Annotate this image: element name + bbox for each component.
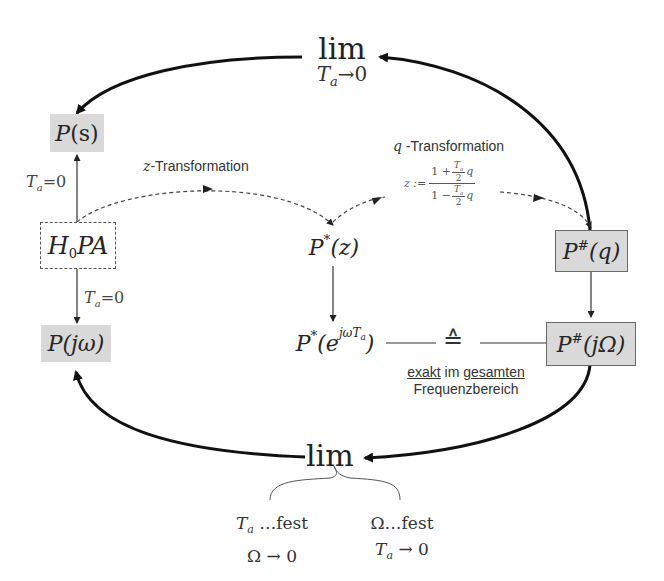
p-jomega-arg: (jΩ) [583,332,625,357]
label-ta0-up: Ta=0 [26,172,66,193]
fixed-text: Ω…fest [362,510,442,536]
p-s-arg: (s) [70,121,98,146]
q-transform-formula: z := 1 + Ta2 q 1 − Ta2 q [404,160,475,207]
den-ta-sub: a [460,190,463,196]
dashed-z-transform [77,191,333,225]
ta-var: T [26,172,37,191]
label-lim-bottom: lim [306,438,354,473]
h-symbol: H [48,232,69,260]
q-transform-text: -Transformation [402,138,504,154]
h-subscript: 0 [69,246,77,261]
den-q: q [466,189,473,202]
exponent: jωT [339,326,361,340]
label-ta0-down: Ta=0 [84,288,124,309]
im-text: im [441,364,464,380]
node-p-star-e: P*(ejωTa) [283,325,387,361]
p-symbol: P [309,235,324,260]
ta-var: T [84,288,95,307]
arrow-lim-bottom-to-pjw [76,372,305,457]
num-q: q [466,165,473,178]
p-symbol: P [296,331,311,356]
num-ta-sub: a [460,166,463,172]
eq-zero: =0 [43,172,67,191]
ta-sub: a [330,74,338,89]
limit-text: Ω → 0 [232,543,312,569]
dashed-q-transform-right [500,192,591,228]
p-q-arg: (q) [589,239,620,264]
node-p-hash-jomega: P#(jΩ) [546,322,636,366]
node-p-jw: P(jω) [41,325,111,362]
gesamten-text: gesamten [463,364,524,380]
node-h0pa: H0PA [40,222,116,269]
formula-fraction: 1 + Ta2 q 1 − Ta2 q [429,160,475,207]
fixed-text: …fest [254,513,308,533]
lim-text: lim [302,34,382,64]
p-symbol: P [55,121,70,146]
p-jw-arg: (jω) [62,331,104,356]
eq-zero: =0 [101,288,125,307]
limit-text: → 0 [393,539,429,559]
corresponds-symbol: ≙ [443,326,463,354]
p-symbol: P [563,239,578,264]
label-case-right: Ω…fest Ta → 0 [362,510,442,569]
ta-var: T [375,539,386,559]
den-two: 2 [456,197,462,207]
ta-var: T [317,62,330,86]
label-z-transformation: z-Transformation [143,158,249,174]
node-p-s: P(s) [50,114,104,152]
exakt-text: exakt [407,364,440,380]
arrow-lim-top-to-ps [77,57,302,113]
label-exact-frequency-range: exakt im gesamten Frequenzbereich [384,364,548,398]
p-symbol: P [48,331,63,356]
p-z-arg: (z) [330,235,359,260]
frequenzbereich-text: Frequenzbereich [384,381,548,398]
num-two: 2 [456,173,462,183]
label-lim-top: lim Ta→0 [302,34,382,92]
node-p-star-z: P*(z) [296,230,372,264]
star-superscript: * [310,327,317,343]
hash-superscript: # [572,330,583,346]
exp-open: (e [317,331,339,356]
node-p-hash-q: P#(q) [555,230,628,272]
hash-superscript: # [578,237,589,253]
exponent-subscript: a [360,332,365,342]
label-case-left: Ta …fest Ω → 0 [232,510,312,569]
label-q-transformation: q -Transformation [393,138,504,154]
lim-condition: →0 [338,62,367,86]
p-symbol: P [557,332,572,357]
z-transform-text: -Transformation [150,158,248,174]
exp-close: ) [366,331,375,356]
num-one-plus: 1 + [431,165,451,178]
formula-lhs: z := [404,177,426,190]
pa-symbol: PA [77,232,108,260]
ta-var: T [236,513,247,533]
den-one-minus: 1 − [431,189,451,202]
q-var: q [393,138,402,154]
star-superscript: * [324,231,331,247]
